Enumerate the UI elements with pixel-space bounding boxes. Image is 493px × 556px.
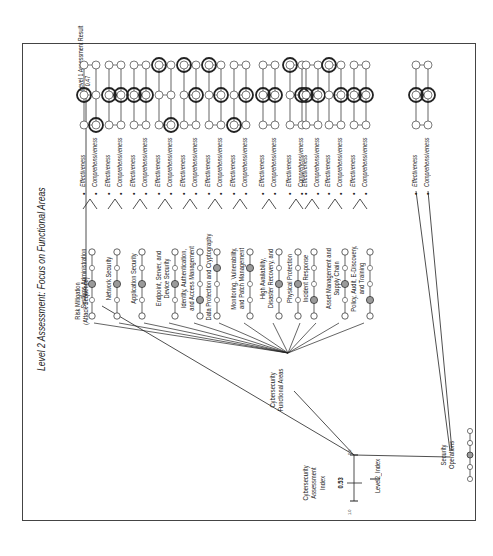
bullet-icon: •: [180, 193, 187, 195]
functional-area-name: and Training: [358, 237, 366, 321]
effectiveness-label: Effectiveness: [325, 155, 332, 187]
comprehensiveness-label: Comprehensiveness: [217, 137, 224, 187]
functional-area-label: Monitoring, Vulnerability,and Patch Mana…: [230, 237, 247, 321]
bullet-icon: •: [105, 193, 112, 195]
effectiveness-label: Effectiveness: [412, 155, 419, 187]
functional-area-name: Systems Administration: [80, 237, 88, 321]
bullet-icon: •: [325, 193, 332, 195]
bullet-icon: •: [350, 193, 357, 195]
bullet-icon: •: [217, 193, 224, 195]
comprehensiveness-label: Comprehensiveness: [92, 137, 99, 187]
effectiveness-label: Effectiveness: [286, 155, 293, 187]
bullet-icon: •: [205, 193, 212, 195]
effectiveness-label: Effectiveness: [205, 155, 212, 187]
functional-area-label: Network Security: [105, 237, 113, 321]
functional-area-label: Systems Administration: [80, 237, 88, 321]
comprehensiveness-label: Comprehensiveness: [167, 137, 174, 187]
bullet-icon: •: [412, 193, 419, 195]
bullet-icon: •: [314, 193, 321, 195]
functional-area-name: and Patch Management: [238, 237, 246, 321]
functional-area-name: and Access Management: [188, 237, 196, 321]
functional-area-name: Physical Protection: [286, 237, 294, 321]
level2-assessment-figure: Level 2 Assessment: Focus on Functional …: [22, 41, 478, 521]
functional-area-name: Network Security: [105, 237, 113, 321]
bullet-icon: •: [92, 193, 99, 195]
effectiveness-label: Effectiveness: [230, 155, 237, 187]
bullet-icon: •: [242, 193, 249, 195]
functional-area-name: Data Protection and Cryptography: [205, 237, 213, 321]
effectiveness-label: Effectiveness: [180, 155, 187, 187]
comprehensiveness-label: Comprehensiveness: [362, 137, 369, 187]
effectiveness-label: Effectiveness: [259, 155, 266, 187]
functional-area-label: Endpoint, Server, andDevice Security: [155, 237, 172, 321]
bullet-icon: •: [337, 193, 344, 195]
comprehensiveness-label: Comprehensiveness: [142, 137, 149, 187]
comprehensiveness-label: Comprehensiveness: [117, 137, 124, 187]
bullet-icon: •: [80, 193, 87, 195]
bullet-icon: •: [271, 193, 278, 195]
bullet-icon: •: [192, 193, 199, 195]
functional-area-name: Incident Response: [302, 237, 310, 321]
bullet-icon: •: [130, 193, 137, 195]
bullet-icon: •: [424, 193, 431, 195]
functional-area-name: Application Security: [130, 237, 138, 321]
bullet-icon: •: [155, 193, 162, 195]
effectiveness-label: Effectiveness: [130, 155, 137, 187]
comprehensiveness-label: Comprehensiveness: [192, 137, 199, 187]
functional-area-name: Disaster Recovery, and: [267, 237, 275, 321]
bullet-icon: •: [302, 193, 309, 195]
comprehensiveness-label: Comprehensiveness: [271, 137, 278, 187]
functional-area-label: Identity, Authentication,and Access Mana…: [180, 237, 197, 321]
comprehensiveness-label: Comprehensiveness: [314, 137, 321, 187]
functional-area-label: Physical Protection: [286, 237, 294, 321]
effectiveness-label: Effectiveness: [350, 155, 357, 187]
comprehensiveness-label: Comprehensiveness: [242, 137, 249, 187]
connector-lines: [22, 41, 478, 521]
functional-area-label: Data Protection and Cryptography: [205, 237, 213, 321]
functional-area-label: Asset Management andSupply Chain: [325, 237, 342, 321]
bullet-icon: •: [362, 193, 369, 195]
effectiveness-label: Effectiveness: [155, 155, 162, 187]
comprehensiveness-label: Comprehensiveness: [424, 137, 431, 187]
figure-stage: Level 2 Assessment: Focus on Functional …: [0, 0, 493, 556]
functional-area-name: Device Security: [163, 237, 171, 321]
functional-area-label: Incident Response: [302, 237, 310, 321]
functional-area-label: High Availability,Disaster Recovery, and: [259, 237, 276, 321]
bullet-icon: •: [286, 193, 293, 195]
bullet-icon: •: [167, 193, 174, 195]
effectiveness-label: Effectiveness: [80, 155, 87, 187]
comprehensiveness-label: Comprehensiveness: [337, 137, 344, 187]
bullet-icon: •: [230, 193, 237, 195]
effectiveness-label: Effectiveness: [105, 155, 112, 187]
bullet-icon: •: [142, 193, 149, 195]
bullet-icon: •: [259, 193, 266, 195]
functional-area-label: Policy, Audit, E-Discovery,and Training: [350, 237, 367, 321]
effectiveness-label: Effectiveness: [302, 155, 309, 187]
functional-area-label: Application Security: [130, 237, 138, 321]
bullet-icon: •: [117, 193, 124, 195]
functional-area-name: Supply Chain: [333, 237, 341, 321]
